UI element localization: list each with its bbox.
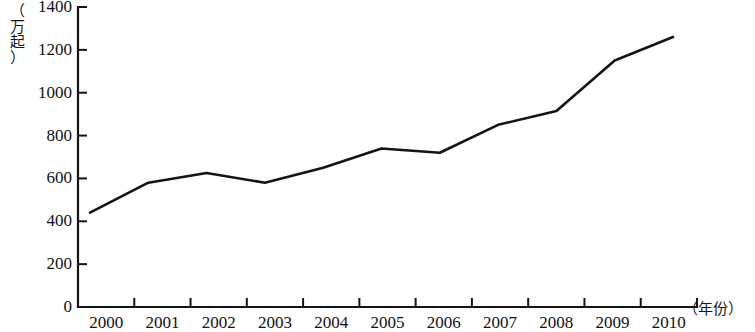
y-axis [78,7,86,307]
y-axis-tick-label: 200 [0,255,72,272]
y-axis-tick-label: 1200 [0,41,72,58]
y-axis-tick-label: 600 [0,169,72,186]
x-axis [78,299,697,307]
y-axis-tick-label: 800 [0,127,72,144]
data-polyline [90,37,673,213]
y-axis-tick-label: 400 [0,212,72,229]
y-axis-tick-label: 1400 [0,0,72,15]
y-axis-tick-label: 1000 [0,84,72,101]
x-axis-tick-label: 2010 [634,314,704,331]
y-axis-tick-label: 0 [0,298,72,315]
data-series-line [90,37,673,213]
